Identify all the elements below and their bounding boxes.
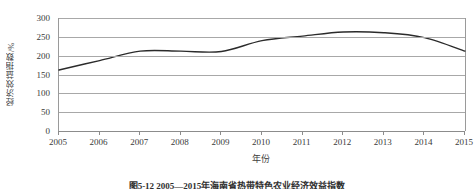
x-axis-tick-label: 2007 [130,137,148,147]
y-axis-tick-label: 200 [37,51,51,61]
y-axis-tick-label: 250 [37,32,51,42]
x-axis-tick-mark [423,131,424,135]
x-axis-tick-label: 2006 [90,137,108,147]
x-axis-tick-label: 2011 [293,137,311,147]
x-axis-tick-label: 2005 [49,137,67,147]
y-axis-tick-label: 50 [41,107,50,117]
gridline [59,75,465,76]
y-axis-tick-label: 300 [37,13,51,23]
gridline [59,112,465,113]
gridline [59,18,465,19]
x-axis-tick-label: 2009 [211,137,229,147]
y-axis-tick-label: 100 [37,88,51,98]
gridline [59,93,465,94]
x-axis-tick-label: 2014 [414,137,432,147]
chart-figure: 经济效益指数/% 050100150200250300 200520062007… [0,0,474,189]
x-axis-tick-mark [261,131,262,135]
x-axis-tick-mark [342,131,343,135]
y-axis-title: 经济效益指数/% [4,18,18,131]
x-axis-title: 年份 [58,152,464,165]
y-axis-tick-label: 150 [37,70,51,80]
x-axis-tick-mark [383,131,384,135]
x-axis-tick-labels: 2005200620072008200920102011201220132014… [58,137,464,151]
figure-caption: 图5-12 2005—2015年海南省热带特色农业经济效益指数 [0,179,474,189]
x-axis-tick-mark [58,131,59,135]
x-axis-tick-mark [302,131,303,135]
x-axis-tick-mark [464,131,465,135]
x-axis-tick-label: 2012 [333,137,351,147]
gridline [59,37,465,38]
y-axis-tick-label: 0 [46,126,51,136]
x-axis-tick-label: 2008 [171,137,189,147]
plot-area [58,18,466,131]
x-axis-tick-label: 2013 [374,137,392,147]
x-axis-tick-mark [180,131,181,135]
x-axis-tick-marks [58,131,464,135]
x-axis-tick-label: 2015 [455,137,473,147]
x-axis-tick-mark [139,131,140,135]
y-axis-tick-labels: 050100150200250300 [18,18,54,131]
x-axis-tick-mark [99,131,100,135]
x-axis-tick-label: 2010 [252,137,270,147]
x-axis-tick-mark [220,131,221,135]
gridline [59,56,465,57]
